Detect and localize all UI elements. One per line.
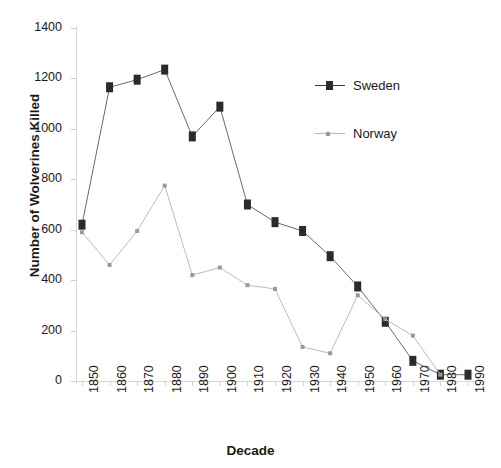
chart-legend: Sweden Norway — [315, 72, 455, 168]
sweden-marker-icon — [315, 79, 345, 91]
data-point-norway — [190, 273, 194, 277]
norway-marker-icon — [315, 127, 345, 139]
data-point-norway — [80, 230, 84, 234]
legend-item-sweden[interactable]: Sweden — [315, 72, 455, 98]
data-point-sweden — [354, 281, 361, 291]
data-point-sweden — [299, 226, 306, 236]
data-point-norway — [108, 263, 112, 267]
data-point-sweden — [244, 200, 251, 210]
data-point-sweden — [465, 370, 472, 380]
series-line-norway — [82, 186, 440, 375]
wolverine-harvest-line-chart: Number of Wolverines Killed Decade 02004… — [0, 0, 501, 468]
data-point-norway — [356, 293, 360, 297]
legend-label-norway: Norway — [353, 126, 397, 141]
legend-item-norway[interactable]: Norway — [315, 120, 455, 146]
data-point-norway — [218, 266, 222, 270]
data-point-norway — [328, 351, 332, 355]
data-point-sweden — [327, 251, 334, 261]
data-point-norway — [163, 184, 167, 188]
data-series-layer — [0, 0, 501, 468]
data-point-sweden — [216, 102, 223, 112]
data-point-norway — [438, 373, 442, 377]
data-point-sweden — [272, 217, 279, 227]
data-point-norway — [135, 229, 139, 233]
data-point-sweden — [106, 82, 113, 92]
data-point-sweden — [134, 75, 141, 85]
data-point-sweden — [79, 220, 86, 230]
data-point-sweden — [161, 65, 168, 75]
legend-label-sweden: Sweden — [353, 78, 400, 93]
data-point-norway — [245, 283, 249, 287]
data-point-sweden — [409, 356, 416, 366]
data-point-norway — [383, 317, 387, 321]
data-point-sweden — [189, 131, 196, 141]
data-point-norway — [301, 345, 305, 349]
data-point-norway — [411, 334, 415, 338]
data-point-norway — [273, 287, 277, 291]
